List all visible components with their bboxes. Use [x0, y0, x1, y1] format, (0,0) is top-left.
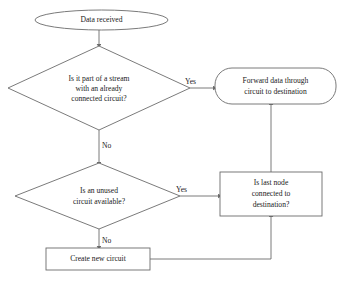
node-last-node[interactable]: Is last node connected to destination? — [220, 172, 322, 216]
edge-label-unused-yes: Yes — [176, 185, 187, 194]
create-circuit-label: Create new circuit — [70, 254, 127, 263]
last-node-line1: Is last node — [254, 178, 289, 187]
flowchart-diagram: Data received Is it part of a stream wit… — [0, 0, 338, 281]
start-label: Data received — [81, 15, 123, 24]
connector-create-circuit-to-last-node — [150, 216, 271, 259]
decision-stream-line1: Is it part of a stream — [69, 74, 130, 83]
last-node-line2: connected to — [252, 189, 291, 198]
node-forward-data[interactable]: Forward data through circuit to destinat… — [215, 68, 336, 104]
node-create-circuit[interactable]: Create new circuit — [46, 248, 150, 270]
decision-stream-line2: with an already — [76, 84, 123, 93]
forward-data-line2: circuit to destination — [244, 87, 307, 96]
flowchart-canvas: Data received Is it part of a stream wit… — [0, 0, 338, 281]
node-decision-unused[interactable]: Is an unused circuit available? — [15, 163, 180, 229]
node-decision-stream[interactable]: Is it part of a stream with an already c… — [8, 46, 190, 130]
edge-label-stream-no: No — [102, 141, 111, 150]
edge-label-stream-yes: Yes — [185, 77, 196, 86]
decision-stream-line3: connected circuit? — [71, 94, 127, 103]
decision-unused-line2: circuit available? — [73, 197, 126, 206]
last-node-line3: destination? — [253, 200, 290, 209]
decision-unused-line1: Is an unused — [80, 186, 118, 195]
forward-data-line1: Forward data through — [243, 76, 309, 85]
edge-label-unused-no: No — [102, 236, 111, 245]
node-start[interactable]: Data received — [35, 10, 168, 30]
